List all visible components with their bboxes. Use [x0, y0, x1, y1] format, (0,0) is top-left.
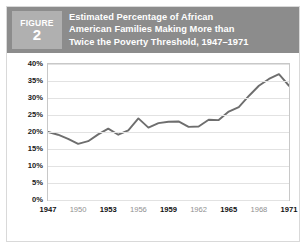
y-axis-tick-label: 5% — [9, 179, 43, 187]
series-polyline — [48, 74, 289, 144]
y-axis-tick-label: 0% — [9, 196, 43, 204]
figure-title-line-1: Estimated Percentage of African — [69, 11, 295, 23]
gridline — [48, 166, 289, 167]
gridline — [48, 98, 289, 99]
y-axis-tick-label: 35% — [9, 77, 43, 85]
gridline — [48, 64, 289, 65]
y-axis-tick-label: 40% — [9, 60, 43, 68]
figure-number-text: 2 — [33, 27, 41, 43]
x-axis-labels: 194719501953195619591962196519681971 — [47, 205, 290, 219]
figure-title-line-3: Twice the Poverty Threshold, 1947–1971 — [69, 36, 295, 48]
figure-number-badge: FIGURE 2 — [12, 11, 62, 49]
gridline — [48, 200, 289, 201]
chart-area: 0%5%10%15%20%25%30%35%40% 19471950195319… — [7, 53, 299, 241]
y-axis-tick-label: 10% — [9, 162, 43, 170]
gridline — [48, 183, 289, 184]
figure-header: FIGURE 2 Estimated Percentage of African… — [7, 7, 299, 53]
y-axis-tick-label: 30% — [9, 94, 43, 102]
y-axis-tick-label: 20% — [9, 128, 43, 136]
gridline — [48, 81, 289, 82]
figure-container: FIGURE 2 Estimated Percentage of African… — [6, 6, 300, 242]
y-axis-labels: 0%5%10%15%20%25%30%35%40% — [7, 63, 43, 201]
plot-area — [47, 63, 290, 201]
figure-title-line-2: American Families Making More than — [69, 23, 295, 35]
gridline — [48, 115, 289, 116]
figure-title: Estimated Percentage of African American… — [69, 11, 295, 48]
y-axis-tick-label: 25% — [9, 111, 43, 119]
y-axis-tick-label: 15% — [9, 145, 43, 153]
x-axis-tick-label: 1971 — [269, 205, 306, 215]
gridline — [48, 132, 289, 133]
gridline — [48, 149, 289, 150]
